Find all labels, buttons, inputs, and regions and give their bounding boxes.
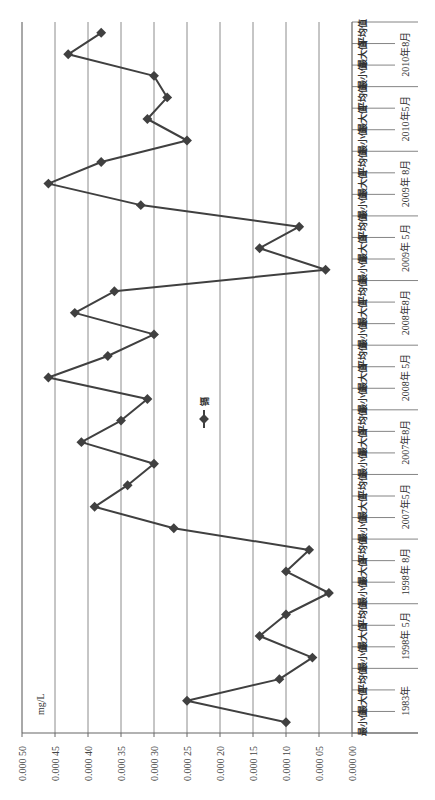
group-label: 2009年 5月 <box>399 224 411 272</box>
data-point-diamond-icon <box>324 588 334 598</box>
data-point-diamond-icon <box>90 502 100 512</box>
data-point-diamond-icon <box>43 373 53 383</box>
data-point-diamond-icon <box>182 136 192 146</box>
data-point-diamond-icon <box>294 222 304 232</box>
data-point-diamond-icon <box>281 717 291 727</box>
group-label: 2008年8月 <box>399 290 411 335</box>
group-label: 1998年 5月 <box>399 612 411 660</box>
category-label: 平均值 <box>357 19 368 46</box>
gridlines <box>22 22 319 733</box>
value-tick-label: 0.000 50 <box>17 746 28 781</box>
unit-label: mg/L <box>35 693 46 715</box>
group-label: 2010年5月 <box>399 96 411 141</box>
series-cadmium <box>43 28 333 727</box>
legend-diamond-icon <box>199 414 209 424</box>
value-tick-label: 0.000 45 <box>50 746 61 781</box>
data-point-diamond-icon <box>96 157 106 167</box>
data-point-diamond-icon <box>307 653 317 663</box>
data-point-diamond-icon <box>136 200 146 210</box>
data-point-diamond-icon <box>43 179 53 189</box>
group-label: 2007年5月 <box>399 484 411 529</box>
data-point-diamond-icon <box>169 523 179 533</box>
value-tick-label: 0.000 25 <box>182 746 193 781</box>
value-tick-label: 0.000 35 <box>116 746 127 781</box>
data-point-diamond-icon <box>182 696 192 706</box>
data-point-diamond-icon <box>70 308 80 318</box>
value-tick-label: 0.000 00 <box>347 746 358 781</box>
line-chart: 0.000 000.000 050.000 100.000 150.000 20… <box>0 0 435 800</box>
data-point-diamond-icon <box>255 243 265 253</box>
data-point-diamond-icon <box>149 329 159 339</box>
series-line <box>48 33 329 722</box>
legend-label: 镉 <box>199 397 210 406</box>
group-label: 2008年 5月 <box>399 354 411 402</box>
data-point-diamond-icon <box>76 437 86 447</box>
data-point-diamond-icon <box>103 351 113 361</box>
value-tick-label: 0.000 40 <box>83 746 94 781</box>
data-point-diamond-icon <box>109 286 119 296</box>
value-tick-label: 0.000 15 <box>248 746 259 781</box>
group-label: 2007年8月 <box>399 420 411 465</box>
value-tick-label: 0.000 10 <box>281 746 292 781</box>
data-point-diamond-icon <box>149 71 159 81</box>
group-label: 2009年 8月 <box>399 160 411 208</box>
value-axis-ticks: 0.000 000.000 050.000 100.000 150.000 20… <box>17 733 358 781</box>
group-label: 1998年 8月 <box>399 548 411 596</box>
value-tick-label: 0.000 30 <box>149 746 160 781</box>
group-label: 2010年8月 <box>399 32 411 77</box>
legend: 镉 <box>199 397 210 428</box>
data-point-diamond-icon <box>321 265 331 275</box>
group-label: 1983年 <box>399 686 411 716</box>
value-tick-label: 0.000 05 <box>314 746 325 781</box>
value-tick-label: 0.000 20 <box>215 746 226 781</box>
